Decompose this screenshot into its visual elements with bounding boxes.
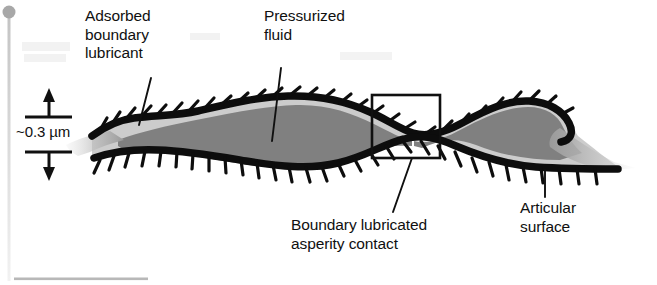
label-boundary-lubricated-asperity-contact: Boundary lubricated asperity contact xyxy=(291,216,427,253)
scan-dot-artifact xyxy=(3,6,16,19)
leader-asperity-contact xyxy=(393,158,412,212)
label-pressurized-fluid: Pressurized fluid xyxy=(264,7,345,44)
vertical-streak-artifact xyxy=(8,16,11,281)
label-adsorbed-boundary-lubricant: Adsorbed boundary lubricant xyxy=(85,7,151,63)
label-articular-surface: Articular surface xyxy=(520,199,576,236)
dimension-up-arrowhead xyxy=(43,88,55,102)
label-film-thickness: ~0.3 µm xyxy=(16,123,70,142)
bottom-rule-artifact xyxy=(14,278,148,281)
dimension-down-arrowhead xyxy=(43,167,55,181)
lubrication-diagram-figure: Adsorbed boundary lubricant Pressurized … xyxy=(0,0,657,285)
